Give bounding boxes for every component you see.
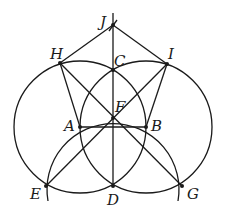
label-j: J xyxy=(97,13,107,31)
label-h: H xyxy=(49,45,64,63)
point-a xyxy=(78,125,82,129)
label-c: C xyxy=(114,52,126,70)
label-b: B xyxy=(150,117,162,135)
construction-diagram: A B C D E F G H I J xyxy=(0,0,226,211)
point-g xyxy=(180,184,184,188)
label-e: E xyxy=(29,185,41,203)
label-f: F xyxy=(114,98,126,116)
point-f xyxy=(111,116,115,120)
label-a: A xyxy=(62,117,75,135)
segment-hg xyxy=(60,63,182,186)
point-j xyxy=(111,23,115,27)
point-b xyxy=(144,125,148,129)
label-g: G xyxy=(187,185,199,203)
point-e xyxy=(44,184,48,188)
point-d xyxy=(111,184,115,188)
label-d: D xyxy=(106,191,119,209)
label-i: I xyxy=(167,45,175,63)
